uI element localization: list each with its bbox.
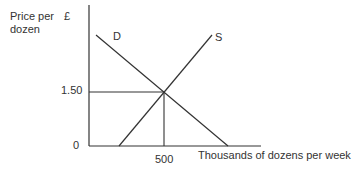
- supply-label: S: [215, 31, 222, 44]
- x-axis-label: Thousands of dozens per week: [198, 149, 351, 162]
- demand-curve: [96, 35, 228, 146]
- supply-demand-diagram: [0, 0, 358, 171]
- quantity-tick-label: 500: [155, 153, 173, 166]
- price-tick-label: 1.50: [61, 84, 82, 97]
- y-axis-label-line1: Price per: [10, 10, 54, 23]
- supply-curve: [119, 35, 212, 146]
- y-axis-unit: £: [64, 10, 70, 23]
- y-axis-label-line2: dozen: [10, 23, 40, 36]
- origin-label: 0: [73, 139, 79, 152]
- demand-label: D: [113, 30, 121, 43]
